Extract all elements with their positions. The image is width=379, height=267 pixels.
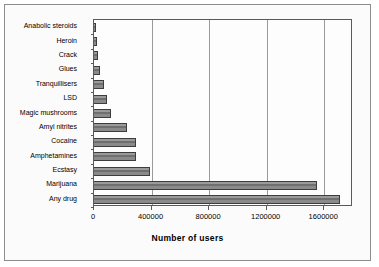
bar-row: [94, 34, 97, 48]
category-label: Any drug: [0, 194, 77, 203]
x-tick-mark: [151, 206, 152, 210]
bar-row: [94, 178, 317, 192]
x-tick-mark: [323, 206, 324, 210]
bar: [94, 109, 111, 118]
bar-row: [94, 92, 107, 106]
y-tick-mark: [91, 193, 94, 194]
category-label: Magic mushrooms: [0, 108, 77, 117]
category-label: Cocaine: [0, 136, 77, 145]
category-label: Tranquillisers: [0, 79, 77, 88]
x-axis-title: Number of users: [5, 233, 370, 243]
bar: [94, 51, 98, 60]
bar-row: [94, 20, 96, 34]
y-tick-mark: [91, 49, 94, 50]
bar-series: [94, 20, 351, 205]
category-label: Amyl nitrites: [0, 122, 77, 131]
category-label: Glues: [0, 64, 77, 73]
bar: [94, 195, 340, 204]
category-label: LSD: [0, 93, 77, 102]
bar-row: [94, 135, 136, 149]
y-tick-mark: [91, 78, 94, 79]
y-tick-mark: [91, 121, 94, 122]
category-label: Crack: [0, 50, 77, 59]
y-tick-mark: [91, 178, 94, 179]
bar-row: [94, 164, 150, 178]
bar-row: [94, 121, 127, 135]
bar: [94, 152, 136, 161]
category-label: Amphetamines: [0, 151, 77, 160]
bar-row: [94, 78, 104, 92]
x-tick-label: 0: [91, 212, 95, 221]
x-tick-label: 1600000: [309, 212, 338, 221]
y-tick-mark: [91, 34, 94, 35]
bar: [94, 23, 96, 32]
y-tick-mark: [91, 164, 94, 165]
x-tick-mark: [93, 206, 94, 210]
bar: [94, 181, 317, 190]
bar-row: [94, 106, 111, 120]
category-label: Anabolic steroids: [0, 21, 77, 30]
category-label: Ecstasy: [0, 165, 77, 174]
y-tick-mark: [91, 106, 94, 107]
bar: [94, 80, 104, 89]
y-tick-mark: [91, 63, 94, 64]
bar-row: [94, 63, 100, 77]
chart-figure: Anabolic steroidsHeroinCrackGluesTranqui…: [4, 4, 371, 261]
x-tick-label: 1200000: [251, 212, 280, 221]
bar: [94, 123, 127, 132]
x-tick-mark: [266, 206, 267, 210]
y-tick-mark: [91, 149, 94, 150]
bar-row: [94, 193, 340, 207]
x-tick-mark: [208, 206, 209, 210]
x-tick-label: 400000: [138, 212, 163, 221]
bar: [94, 95, 107, 104]
y-tick-mark: [91, 135, 94, 136]
bar: [94, 167, 150, 176]
bar-row: [94, 149, 136, 163]
bar-row: [94, 49, 98, 63]
bar: [94, 37, 97, 46]
y-tick-mark: [91, 92, 94, 93]
plot-area: [93, 19, 352, 206]
category-label: Marijuana: [0, 179, 77, 188]
category-label: Heroin: [0, 36, 77, 45]
bar: [94, 138, 136, 147]
bar: [94, 66, 100, 75]
x-tick-label: 800000: [196, 212, 221, 221]
